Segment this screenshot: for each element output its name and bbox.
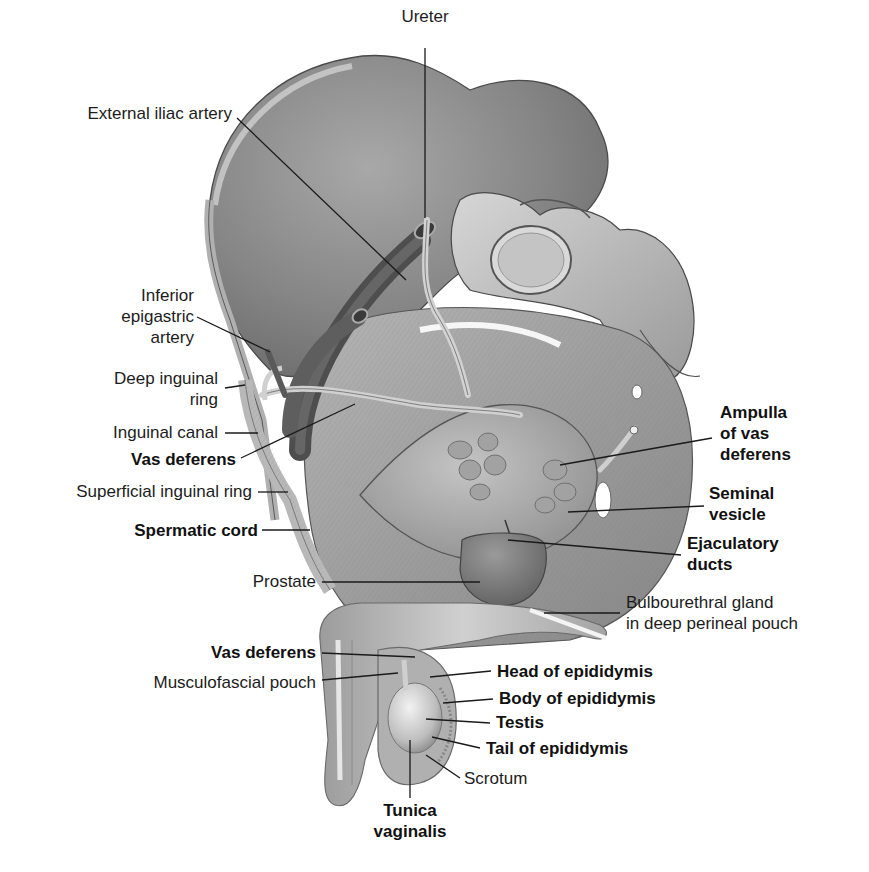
label-line: Deep inguinal bbox=[60, 368, 218, 389]
label-line: Vas deferens bbox=[150, 642, 316, 663]
label-tunica-vaginalis: Tunica vaginalis bbox=[360, 800, 460, 842]
label-line: Inferior bbox=[60, 285, 194, 306]
label-line: vaginalis bbox=[360, 821, 460, 842]
label-line: Ureter bbox=[395, 6, 455, 27]
label-line: Testis bbox=[496, 712, 596, 733]
label-ampulla-of-vas-deferens: Ampulla of vas deferens bbox=[720, 402, 860, 465]
label-line: Body of epididymis bbox=[499, 688, 699, 709]
label-line: Spermatic cord bbox=[40, 520, 258, 541]
label-spermatic-cord: Spermatic cord bbox=[40, 520, 258, 541]
label-line: Inguinal canal bbox=[40, 422, 218, 443]
label-line: Musculofascial pouch bbox=[100, 672, 316, 693]
testis-structure bbox=[388, 683, 442, 753]
label-external-iliac-artery: External iliac artery bbox=[10, 103, 232, 124]
label-inferior-epigastric-artery: Inferior epigastric artery bbox=[60, 285, 194, 348]
label-line: Prostate bbox=[200, 571, 316, 592]
label-line: Scrotum bbox=[464, 768, 564, 789]
label-line: Bulbourethral gland bbox=[626, 592, 866, 613]
label-vas-deferens-lower: Vas deferens bbox=[150, 642, 316, 663]
label-seminal-vesicle: Seminal vesicle bbox=[709, 483, 849, 525]
label-line: ring bbox=[60, 389, 218, 410]
scrotum-structure bbox=[378, 647, 456, 784]
label-line: Tail of epididymis bbox=[486, 738, 686, 759]
label-line: External iliac artery bbox=[10, 103, 232, 124]
label-ureter: Ureter bbox=[395, 6, 455, 27]
label-line: Vas deferens bbox=[40, 449, 236, 470]
label-line: artery bbox=[60, 327, 194, 348]
label-scrotum: Scrotum bbox=[464, 768, 564, 789]
label-musculofascial-pouch: Musculofascial pouch bbox=[100, 672, 316, 693]
label-ejaculatory-ducts: Ejaculatory ducts bbox=[687, 533, 847, 575]
label-line: Tunica bbox=[360, 800, 460, 821]
label-testis: Testis bbox=[496, 712, 596, 733]
label-body-of-epididymis: Body of epididymis bbox=[499, 688, 699, 709]
label-line: Head of epididymis bbox=[497, 661, 697, 682]
label-line: Ampulla bbox=[720, 402, 860, 423]
label-line: in deep perineal pouch bbox=[626, 613, 866, 634]
label-head-of-epididymis: Head of epididymis bbox=[497, 661, 697, 682]
label-line: Ejaculatory bbox=[687, 533, 847, 554]
label-superficial-inguinal-ring: Superficial inguinal ring bbox=[0, 481, 252, 502]
label-deep-inguinal-ring: Deep inguinal ring bbox=[60, 368, 218, 410]
label-prostate: Prostate bbox=[200, 571, 316, 592]
label-line: epigastric bbox=[60, 306, 194, 327]
label-line: ducts bbox=[687, 554, 847, 575]
label-line: vesicle bbox=[709, 504, 849, 525]
label-bulbourethral-gland: Bulbourethral gland in deep perineal pou… bbox=[626, 592, 866, 634]
label-line: deferens bbox=[720, 444, 860, 465]
label-line: of vas bbox=[720, 423, 860, 444]
label-vas-deferens-upper: Vas deferens bbox=[40, 449, 236, 470]
label-line: Seminal bbox=[709, 483, 849, 504]
label-inguinal-canal: Inguinal canal bbox=[40, 422, 218, 443]
label-line: Superficial inguinal ring bbox=[0, 481, 252, 502]
label-tail-of-epididymis: Tail of epididymis bbox=[486, 738, 686, 759]
